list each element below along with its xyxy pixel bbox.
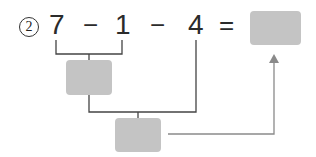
step2-answer-box[interactable] bbox=[115, 118, 161, 152]
step1-answer-box[interactable] bbox=[66, 60, 112, 95]
answer-box[interactable] bbox=[250, 11, 301, 45]
operand-1: 1 bbox=[115, 11, 131, 39]
operand-4: 4 bbox=[188, 11, 204, 39]
minus-operator-1: − bbox=[83, 12, 98, 38]
operand-7: 7 bbox=[49, 11, 65, 39]
equals-sign: = bbox=[219, 12, 234, 38]
minus-operator-2: − bbox=[150, 12, 165, 38]
problem-number-badge: 2 bbox=[19, 17, 39, 37]
